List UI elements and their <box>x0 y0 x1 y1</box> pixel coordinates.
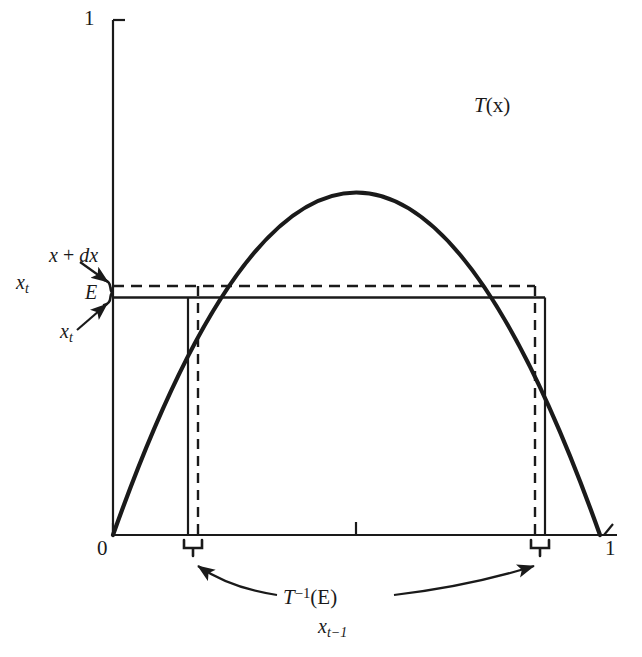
curve-label-base: T <box>474 93 486 117</box>
preimage-label-base: T <box>283 585 295 609</box>
preimage-label: T−1(E) <box>283 586 337 608</box>
band-upper-label-x: x <box>49 244 58 266</box>
y-axis-label: xt <box>16 272 29 296</box>
preimage-leader-arrows <box>198 566 534 595</box>
x-axis-right-tick-label: 1 <box>605 538 616 559</box>
x-axis-label-subscript: t−1 <box>327 625 347 640</box>
x-axis-origin-label: 0 <box>97 538 108 559</box>
y-axis-label-subscript: t <box>25 281 29 296</box>
curve-label-argument: (x) <box>486 93 511 117</box>
preimage-right-bracket <box>531 540 549 556</box>
x-axis-label-base: x <box>318 615 327 637</box>
band-brace-glyph <box>104 280 113 305</box>
preimage-drop-lines <box>188 286 545 535</box>
y-axis-top-tick-label: 1 <box>84 8 95 29</box>
preimage-left-bracket <box>184 540 202 556</box>
preimage-arrow-left <box>198 566 277 595</box>
curve-label-tx: T(x) <box>474 95 510 116</box>
x-axis-right-tick <box>604 524 613 535</box>
band-upper-label-dx: dx <box>79 244 98 266</box>
band-lower-label-subscript: t <box>69 330 73 345</box>
band-brace <box>104 280 113 305</box>
band-upper-label-operator: + <box>63 244 74 266</box>
x-axis-label: xt−1 <box>318 616 347 640</box>
band-upper-label: x + dx <box>49 245 98 265</box>
map-curve-tx <box>113 193 600 536</box>
preimage-interval-brackets <box>184 540 549 556</box>
band-lower-label-base: x <box>60 320 69 342</box>
preimage-label-argument: (E) <box>310 585 337 609</box>
preimage-label-exponent: −1 <box>295 585 311 601</box>
preimage-arrow-right <box>394 566 534 595</box>
band-label-e: E <box>85 282 97 302</box>
figure-container: 1 0 1 xt xt−1 T(x) x + dx E xt T−1(E) <box>0 0 642 657</box>
arrow-to-lower-level <box>77 304 107 330</box>
y-axis-label-base: x <box>16 271 25 293</box>
band-lines <box>113 286 545 298</box>
band-lower-label: xt <box>60 321 73 345</box>
